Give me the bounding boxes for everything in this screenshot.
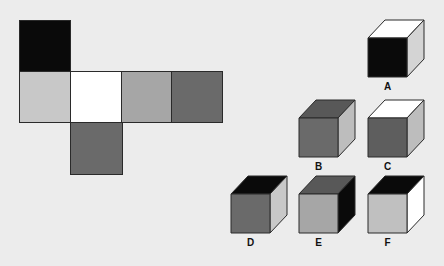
cube-front-face — [368, 38, 407, 77]
cube-net-puzzle: ABCDEF — [0, 0, 444, 266]
cube-front-face — [368, 118, 407, 157]
answer-cubes — [0, 0, 444, 266]
cube-label-d: D — [241, 237, 261, 249]
cube-label-b: B — [309, 161, 329, 173]
cube-label-a: A — [378, 81, 398, 93]
cube-option-e[interactable] — [299, 176, 355, 233]
cube-label-c: C — [378, 161, 398, 173]
cube-front-face — [231, 194, 270, 233]
cube-front-face — [299, 118, 338, 157]
cube-option-d[interactable] — [231, 176, 287, 233]
cube-option-a[interactable] — [368, 20, 424, 77]
cube-label-f: F — [378, 237, 398, 249]
cube-option-b[interactable] — [299, 100, 355, 157]
cube-option-f[interactable] — [368, 176, 424, 233]
cube-option-c[interactable] — [368, 100, 424, 157]
cube-label-e: E — [309, 237, 329, 249]
cube-front-face — [299, 194, 338, 233]
cube-front-face — [368, 194, 407, 233]
